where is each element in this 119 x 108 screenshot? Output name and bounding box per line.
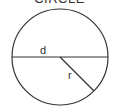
diameter-label: d (40, 44, 46, 56)
circle-diagram: d r (0, 0, 119, 108)
radius-label: r (68, 69, 72, 81)
radius-line (60, 57, 94, 91)
